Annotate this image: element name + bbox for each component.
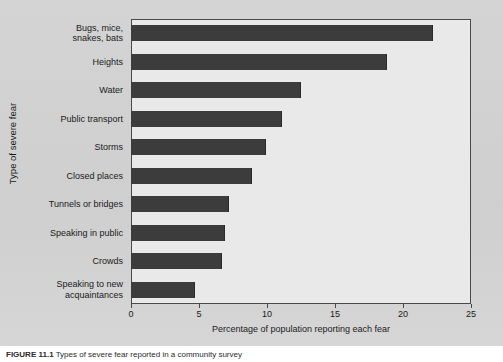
bar-row (131, 225, 471, 241)
bar-row (131, 139, 471, 155)
figure-caption-text: Types of severe fear reported in a commu… (56, 350, 242, 359)
x-axis-tick-label: 20 (398, 309, 408, 319)
x-axis-tick (403, 304, 404, 308)
y-axis-tick-label: Water (99, 85, 123, 96)
y-axis-tick-label: Speaking in public (50, 228, 123, 239)
y-axis-tick-label: Bugs, mice, snakes, bats (72, 23, 123, 44)
y-axis-tick-label: Crowds (92, 256, 123, 267)
bar (131, 25, 433, 41)
bar (131, 111, 282, 127)
bar (131, 282, 195, 298)
bar-row (131, 253, 471, 269)
y-axis-tick-label: Speaking to new acquaintances (56, 279, 123, 300)
x-axis-tick-label: 15 (330, 309, 340, 319)
x-axis-tick (335, 304, 336, 308)
bar (131, 54, 387, 70)
bar-row (131, 168, 471, 184)
y-axis-tick-label: Heights (92, 57, 123, 68)
y-axis-tick-label: Public transport (60, 114, 123, 125)
plot-area (131, 19, 471, 304)
y-axis-title: Type of severe fear (7, 69, 18, 219)
bar-row (131, 282, 471, 298)
y-axis-tick-label: Closed places (66, 171, 123, 182)
figure-root: Bugs, mice, snakes, batsHeightsWaterPubl… (0, 0, 503, 362)
bar (131, 196, 229, 212)
x-axis-tick-label: 25 (466, 309, 476, 319)
x-axis-tick (267, 304, 268, 308)
x-axis-tick-label: 0 (128, 309, 133, 319)
x-axis-title: Percentage of population reporting each … (131, 324, 471, 334)
bar-row (131, 54, 471, 70)
bar-row (131, 196, 471, 212)
bar (131, 253, 222, 269)
x-axis-tick (471, 304, 472, 308)
x-axis: 0510152025 (131, 304, 471, 324)
x-axis-tick-label: 10 (262, 309, 272, 319)
bar (131, 225, 225, 241)
y-axis-tick-label: Tunnels or bridges (49, 199, 123, 210)
bar (131, 82, 301, 98)
x-axis-tick (131, 304, 132, 308)
bar-row (131, 111, 471, 127)
y-axis-category-labels: Bugs, mice, snakes, batsHeightsWaterPubl… (0, 19, 127, 304)
bar (131, 139, 266, 155)
bar-row (131, 82, 471, 98)
bar (131, 168, 252, 184)
figure-number: FIGURE 11.1 (6, 350, 54, 359)
figure-caption: FIGURE 11.1 Types of severe fear reporte… (6, 350, 496, 362)
y-axis-tick-label: Storms (94, 142, 123, 153)
bar-row (131, 25, 471, 41)
x-axis-tick-label: 5 (196, 309, 201, 319)
x-axis-tick (199, 304, 200, 308)
